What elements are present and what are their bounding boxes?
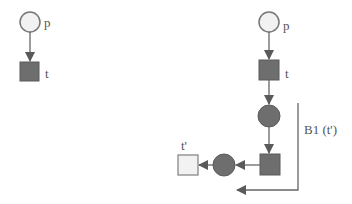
left-place-p-label: p bbox=[44, 15, 51, 30]
new-place-1 bbox=[258, 105, 280, 127]
right-net: p t t' B1 (t') bbox=[178, 12, 337, 190]
right-transition-t bbox=[259, 60, 279, 80]
new-transition-dark bbox=[260, 154, 280, 175]
petri-net-diagram: p t p t t' B1 (t') bbox=[0, 0, 352, 204]
left-place-p bbox=[20, 12, 40, 32]
transition-t-prime bbox=[178, 155, 198, 175]
new-place-2 bbox=[213, 154, 235, 176]
left-transition-t bbox=[20, 62, 39, 81]
right-place-p bbox=[259, 12, 279, 32]
block-label: B1 (t') bbox=[304, 122, 337, 137]
left-transition-t-label: t bbox=[45, 66, 49, 81]
right-place-p-label: p bbox=[283, 18, 290, 33]
left-net: p t bbox=[20, 12, 51, 81]
transition-t-prime-label: t' bbox=[181, 138, 187, 153]
right-transition-t-label: t bbox=[285, 66, 289, 81]
